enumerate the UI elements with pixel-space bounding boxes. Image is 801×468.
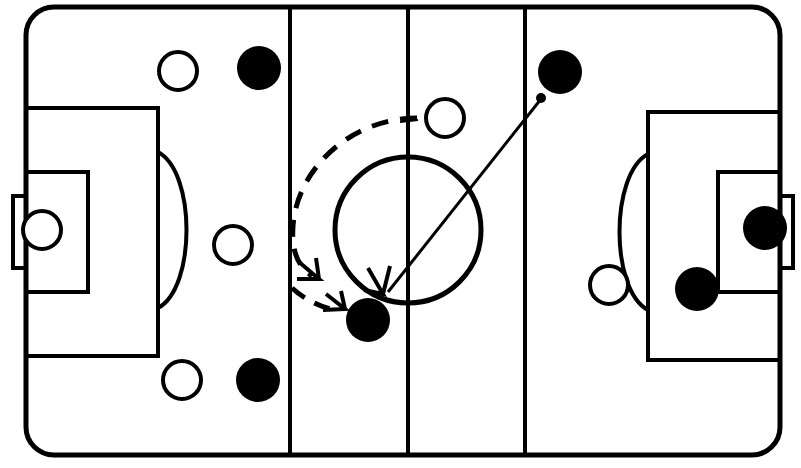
player-dark-receiver[interactable]	[346, 298, 390, 342]
player-dark-right-goal[interactable]	[743, 206, 787, 250]
rink-diagram: Rink Tactical Diagram	[0, 0, 801, 468]
ball-marker[interactable]	[536, 93, 546, 103]
player-light-upper-center[interactable]	[426, 99, 464, 137]
rink-outline	[26, 7, 780, 455]
player-dark-passer[interactable]	[538, 50, 582, 94]
player-dark-right-inner[interactable]	[675, 267, 719, 311]
player-dark-top-left[interactable]	[237, 46, 281, 90]
goalkeeper-left[interactable]	[23, 211, 61, 249]
player-dark-bottom-left[interactable]	[236, 358, 280, 402]
player-light-mid-right[interactable]	[590, 266, 628, 304]
player-light-bottom-left[interactable]	[163, 361, 201, 399]
player-light-top-left[interactable]	[159, 52, 197, 90]
player-light-mid-left[interactable]	[214, 226, 252, 264]
rink-canvas	[0, 0, 801, 468]
